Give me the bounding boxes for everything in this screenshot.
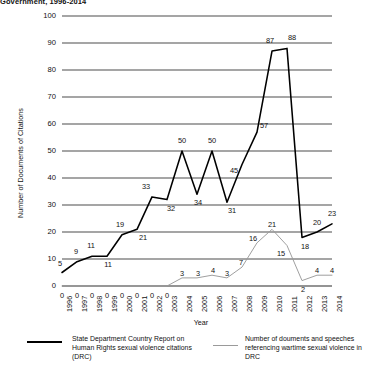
value-label-s1-1996: 0	[60, 291, 64, 300]
legend-swatch-series-1	[213, 345, 238, 346]
y-tick-50: 50	[22, 146, 56, 155]
value-label-s1-1998: 0	[90, 291, 94, 300]
legend-label-series-1: Number of douments and speeches referenc…	[245, 334, 363, 362]
value-label-s0-2011: 88	[288, 33, 296, 42]
legend-label-series-0: State Department Country Report on Human…	[72, 334, 192, 362]
x-tick-2002: 2002	[155, 296, 164, 312]
value-label-s1-2004: 3	[180, 269, 184, 278]
y-tick-10: 10	[22, 254, 56, 263]
value-label-s0-2000: 19	[116, 220, 124, 229]
value-label-s1-2003: 0	[165, 291, 169, 300]
value-label-s1-2001: 0	[135, 291, 139, 300]
x-tick-2003: 2003	[170, 296, 179, 312]
value-label-s1-2014: 4	[330, 266, 334, 275]
value-label-s1-2009: 16	[249, 234, 257, 243]
x-tick-1999: 1999	[110, 296, 119, 312]
value-label-s1-1997: 0	[75, 291, 79, 300]
x-tick-2008: 2008	[245, 296, 254, 312]
y-tick-60: 60	[22, 119, 56, 128]
legend-swatch-series-0	[27, 341, 62, 343]
value-label-s0-2004: 50	[178, 136, 186, 145]
chart-figure: Government, 1996-2014 Number of Document…	[0, 0, 372, 380]
value-label-s0-2002: 33	[142, 182, 150, 191]
value-label-s0-1999: 11	[104, 260, 112, 269]
y-tick-40: 40	[22, 173, 56, 182]
x-tick-2006: 2006	[215, 296, 224, 312]
x-tick-1998: 1998	[95, 296, 104, 312]
value-label-s1-2012: 2	[301, 285, 305, 294]
value-label-s0-2012: 18	[301, 242, 309, 251]
y-tick-80: 80	[22, 65, 56, 74]
x-tick-1996: 1996	[65, 296, 74, 312]
value-label-s1-2005: 3	[196, 269, 200, 278]
y-tick-20: 20	[22, 227, 56, 236]
x-tick-2010: 2010	[275, 296, 284, 312]
x-tick-2014: 2014	[335, 296, 344, 312]
x-tick-2000: 2000	[125, 296, 134, 312]
x-tick-2009: 2009	[260, 296, 269, 312]
value-label-s0-1996: 5	[58, 259, 62, 268]
value-label-s0-2014: 23	[328, 209, 336, 218]
value-label-s1-2002: 0	[150, 291, 154, 300]
x-tick-2001: 2001	[140, 296, 149, 312]
value-label-s1-2000: 0	[120, 291, 124, 300]
value-label-s0-2007: 31	[228, 206, 236, 215]
y-tick-90: 90	[22, 38, 56, 47]
x-tick-1997: 1997	[80, 296, 89, 312]
y-tick-70: 70	[22, 92, 56, 101]
value-label-s0-2010: 87	[266, 36, 274, 45]
value-label-s0-2001: 21	[139, 233, 147, 242]
value-label-s0-2009: 57	[260, 121, 268, 130]
value-label-s0-1997: 9	[74, 247, 78, 256]
x-tick-2007: 2007	[230, 296, 239, 312]
value-label-s1-2010: 21	[268, 220, 276, 229]
value-label-s1-2006: 4	[211, 266, 215, 275]
value-label-s0-2013: 20	[313, 218, 321, 227]
value-label-s1-2011: 15	[277, 249, 285, 258]
value-label-s1-2007: 3	[225, 269, 229, 278]
y-tick-100: 100	[22, 11, 56, 20]
x-tick-2013: 2013	[320, 296, 329, 312]
x-tick-2012: 2012	[305, 296, 314, 312]
value-label-s1-1999: 0	[105, 291, 109, 300]
y-tick-0: 0	[22, 281, 56, 290]
value-label-s0-2005: 34	[194, 198, 202, 207]
value-label-s1-2013: 4	[315, 266, 319, 275]
x-tick-2011: 2011	[290, 296, 299, 312]
value-label-s0-2006: 50	[208, 136, 216, 145]
x-tick-2004: 2004	[185, 296, 194, 312]
x-tick-2005: 2005	[200, 296, 209, 312]
value-label-s0-2003: 32	[167, 204, 175, 213]
value-label-s1-2008: 7	[239, 258, 243, 267]
value-label-s0-2008: 45	[230, 166, 238, 175]
y-tick-30: 30	[22, 200, 56, 209]
plot-area	[0, 0, 372, 380]
value-label-s0-1998: 11	[87, 241, 95, 250]
